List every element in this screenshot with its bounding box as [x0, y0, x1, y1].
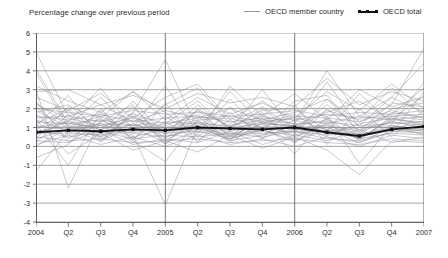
chart-page: Percentage change over previous period O…	[0, 0, 448, 258]
oecd-total-marker	[293, 126, 296, 129]
y-axis-tick-label: 2	[26, 104, 30, 113]
y-axis-tick-label: 3	[26, 85, 30, 94]
y-axis-tick-label: 6	[26, 29, 30, 38]
line-marker-icon	[358, 9, 378, 14]
y-axis-tick-label: -3	[23, 199, 30, 208]
y-axis-tick-label: 1	[26, 123, 30, 132]
oecd-total-marker	[358, 134, 361, 137]
y-axis	[31, 33, 37, 223]
x-axis-tick-label: 2004	[28, 228, 44, 237]
plot-area	[36, 33, 424, 222]
oecd-total-marker	[131, 128, 134, 131]
x-axis-tick-label: Q2	[193, 228, 203, 237]
y-axis-tick-label: 4	[26, 66, 30, 75]
y-axis-labels: 6543210-1-2-3-4	[0, 33, 34, 222]
member-country-series-group	[36, 48, 424, 205]
line-chart-svg	[36, 33, 424, 222]
oecd-total-marker	[390, 128, 393, 131]
oecd-total-marker	[228, 127, 231, 130]
x-axis	[36, 222, 424, 228]
chart-header: Percentage change over previous period O…	[0, 0, 448, 26]
oecd-total-marker	[99, 130, 102, 133]
x-axis-tick-label: Q3	[354, 228, 364, 237]
legend-label-member-country: OECD member country	[265, 7, 344, 16]
y-axis-tick-label: -2	[23, 180, 30, 189]
oecd-total-marker	[422, 125, 424, 128]
x-axis-tick-label: Q3	[225, 228, 235, 237]
x-axis-tick-label: Q2	[63, 228, 73, 237]
member-country-line	[36, 48, 424, 122]
legend-item-member-country: OECD member country	[244, 7, 344, 16]
oecd-total-marker	[164, 129, 167, 132]
chart-legend: OECD member country OECD total	[244, 7, 421, 16]
member-country-line	[36, 78, 424, 108]
y-axis-tick-label: -4	[23, 218, 30, 227]
oecd-total-marker	[67, 129, 70, 132]
x-axis-tick-label: 2007	[416, 228, 432, 237]
y-axis-tick-label: 0	[26, 142, 30, 151]
y-axis-tick-label: 5	[26, 47, 30, 56]
x-axis-tick-label: Q3	[96, 228, 106, 237]
x-axis-tick-label: Q4	[257, 228, 267, 237]
x-axis-tick-label: Q2	[322, 228, 332, 237]
x-axis-tick-label: Q4	[128, 228, 138, 237]
x-axis-tick-label: 2005	[157, 228, 173, 237]
x-axis-tick-label: Q4	[387, 228, 397, 237]
oecd-total-marker	[261, 128, 264, 131]
legend-item-oecd-total: OECD total	[358, 7, 421, 16]
x-axis-tick-label: 2006	[286, 228, 302, 237]
x-axis-labels: 2004Q2Q3Q42005Q2Q3Q42006Q2Q3Q42007	[36, 228, 424, 244]
line-icon	[244, 11, 260, 12]
oecd-total-marker	[325, 131, 328, 134]
page-title: Percentage change over previous period	[29, 8, 170, 17]
y-axis-tick-label: -1	[23, 161, 30, 170]
oecd-total-marker	[196, 126, 199, 129]
legend-label-oecd-total: OECD total	[383, 7, 421, 16]
